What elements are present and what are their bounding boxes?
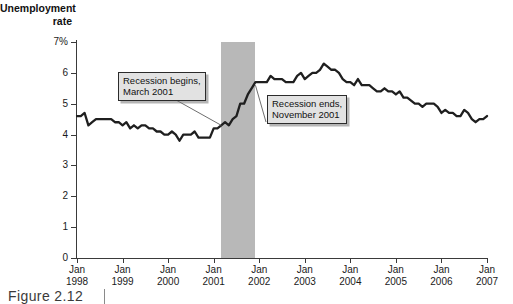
caption-divider: [104, 289, 105, 304]
unemployment-rate-figure: Unemployment rate 7%6543210 Jan 1998Jan …: [0, 0, 513, 304]
annotation-recession-begins: Recession begins, March 2001: [118, 72, 206, 101]
annotation-leader-lines: [0, 0, 513, 304]
leader-line-recession-begins: [176, 100, 221, 125]
leader-line-recession-ends: [255, 85, 266, 122]
annotation-recession-ends: Recession ends, November 2001: [267, 95, 347, 124]
figure-caption: Figure 2.12: [8, 288, 83, 304]
